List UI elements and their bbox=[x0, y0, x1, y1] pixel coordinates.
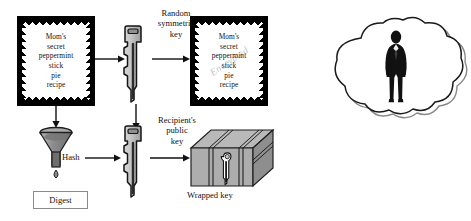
sawtooth-edge-left bbox=[22, 21, 28, 101]
doc-line: recipe bbox=[212, 80, 247, 90]
doc-line: pie bbox=[39, 71, 74, 81]
label-line: Random bbox=[146, 8, 206, 18]
label-line: Recipient's bbox=[146, 115, 208, 125]
sawtooth-edge-right bbox=[84, 21, 90, 101]
plaintext-document-body: Mom's secret peppermint stick pie recipe bbox=[22, 21, 90, 101]
label-line: symmetric bbox=[146, 18, 206, 28]
doc-line: peppermint bbox=[39, 51, 74, 61]
plaintext-document-text: Mom's secret peppermint stick pie recipe bbox=[39, 32, 74, 90]
doc-line: secret bbox=[212, 42, 247, 52]
symmetric-key-icon bbox=[120, 24, 146, 106]
doc-line: stick bbox=[39, 61, 74, 71]
digest-box: Digest bbox=[33, 191, 88, 209]
sawtooth-edge-bottom bbox=[195, 95, 263, 101]
doc-line: recipe bbox=[39, 80, 74, 90]
plaintext-document: Mom's secret peppermint stick pie recipe bbox=[17, 16, 95, 106]
sawtooth-edge-right bbox=[257, 21, 263, 101]
public-key-icon bbox=[120, 124, 146, 200]
arrow-symmetric-key-to-encrypted-doc bbox=[152, 53, 190, 65]
label-line: key bbox=[146, 29, 206, 39]
doc-line: pie bbox=[212, 71, 247, 81]
symmetric-key-label: Random symmetric key bbox=[146, 8, 206, 39]
doc-line: Mom's bbox=[39, 32, 74, 42]
sawtooth-edge-bottom bbox=[22, 95, 90, 101]
wrapped-key-package-icon bbox=[189, 128, 275, 190]
arrow-plaintext-to-funnel bbox=[50, 106, 62, 128]
hash-label: Hash bbox=[62, 152, 80, 162]
diagram-canvas: Mom's secret peppermint stick pie recipe… bbox=[0, 0, 471, 221]
recipient-cloud-icon bbox=[317, 14, 467, 126]
doc-line: peppermint bbox=[212, 51, 247, 61]
doc-line: stick bbox=[212, 61, 247, 71]
encrypted-document-text: Mom's secret peppermint stick pie recipe bbox=[212, 32, 247, 90]
doc-line: secret bbox=[39, 42, 74, 52]
arrow-public-key-to-wrapped-key bbox=[150, 152, 190, 164]
doc-line: Mom's bbox=[212, 32, 247, 42]
wrapped-key-label: Wrapped key bbox=[187, 190, 233, 200]
arrow-hash-to-public-key bbox=[85, 152, 121, 164]
sawtooth-edge-top bbox=[22, 21, 90, 27]
